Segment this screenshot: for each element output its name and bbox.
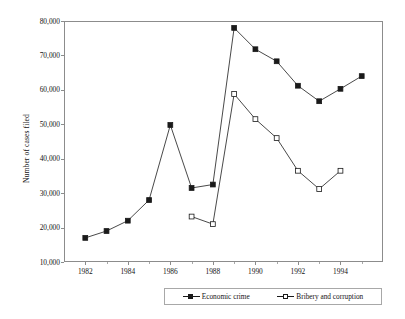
x-tick-label: 1992 <box>278 267 318 276</box>
x-minor-tick-mark <box>362 262 363 264</box>
x-tick-mark <box>298 262 299 265</box>
x-tick-mark <box>170 262 171 265</box>
x-tick-label: 1988 <box>193 267 233 276</box>
x-tick-mark <box>85 262 86 265</box>
x-tick-label: 1984 <box>108 267 148 276</box>
x-tick-mark <box>340 262 341 265</box>
x-tick-mark <box>128 262 129 265</box>
legend-label: Economic crime <box>202 292 250 301</box>
filled-square-marker-icon <box>183 293 200 301</box>
x-minor-tick-mark <box>149 262 150 264</box>
x-minor-tick-mark <box>192 262 193 264</box>
chart-figure: Number of cases filed 10,00020,00030,000… <box>0 0 405 319</box>
legend-label: Bribery and corruption <box>296 292 363 301</box>
x-tick-label: 1982 <box>65 267 105 276</box>
x-minor-tick-mark <box>319 262 320 264</box>
open-square-marker-icon <box>277 293 294 301</box>
x-axis-tick-labels: 1982198419861988199019921994 <box>0 0 405 319</box>
chart-legend: Economic crime Bribery and corruption <box>164 288 382 305</box>
x-minor-tick-mark <box>107 262 108 264</box>
x-tick-label: 1990 <box>235 267 275 276</box>
legend-item-economic-crime: Economic crime <box>183 292 250 301</box>
legend-item-bribery-and-corruption: Bribery and corruption <box>277 292 363 301</box>
x-minor-tick-mark <box>234 262 235 264</box>
x-tick-label: 1986 <box>150 267 190 276</box>
x-tick-mark <box>255 262 256 265</box>
x-minor-tick-mark <box>277 262 278 264</box>
x-tick-label: 1994 <box>320 267 360 276</box>
x-tick-mark <box>213 262 214 265</box>
